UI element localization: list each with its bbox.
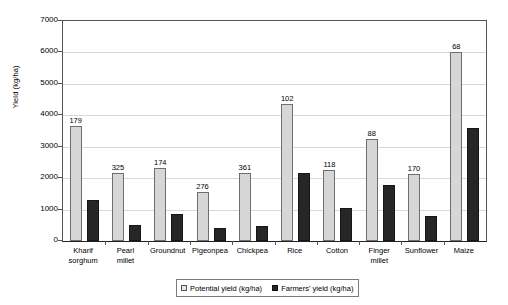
bar-farmers-yield — [425, 216, 437, 241]
bar-value-label: 276 — [188, 183, 218, 191]
y-tick-label: 5000 — [12, 79, 58, 87]
bar-farmers-yield — [129, 225, 141, 241]
legend-entry: Farmers' yield (kg/ha) — [272, 284, 353, 293]
x-axis-label: Kharif sorghum — [62, 246, 104, 265]
bar-potential-yield — [366, 139, 378, 241]
bar-farmers-yield — [87, 200, 99, 241]
x-axis-label: Rice — [274, 246, 316, 256]
yield-comparison-bar-chart: Yield (kg/ha) 01000200030004000500060007… — [0, 0, 508, 305]
gridline — [63, 178, 486, 179]
legend-swatch-icon — [272, 285, 278, 291]
bar-potential-yield — [450, 52, 462, 241]
bar-value-label: 118 — [314, 161, 344, 169]
x-tick-mark — [232, 241, 233, 245]
plot-area: 1793251742763611021188817068 — [62, 20, 487, 242]
y-tick-label: 1000 — [12, 205, 58, 213]
bar-potential-yield — [239, 173, 251, 242]
bar-potential-yield — [323, 170, 335, 241]
bar-value-label: 179 — [61, 117, 91, 125]
bar-value-label: 68 — [441, 43, 471, 51]
x-axis-label: Pigeonpea — [189, 246, 231, 256]
gridline — [63, 210, 486, 211]
x-axis-label: Sunflower — [400, 246, 442, 256]
bar-value-label: 170 — [399, 165, 429, 173]
x-tick-mark — [317, 241, 318, 245]
y-axis-ticks: 01000200030004000500060007000 — [0, 20, 58, 240]
bar-potential-yield — [112, 173, 124, 242]
x-tick-mark — [444, 241, 445, 245]
x-axis-label: Cotton — [316, 246, 358, 256]
bar-farmers-yield — [298, 173, 310, 241]
gridline — [63, 147, 486, 148]
x-axis-label: Chickpea — [231, 246, 273, 256]
gridline — [63, 84, 486, 85]
bar-farmers-yield — [340, 208, 352, 241]
x-axis-label: Groundnut — [147, 246, 189, 256]
y-tick-label: 3000 — [12, 142, 58, 150]
bar-potential-yield — [281, 104, 293, 241]
gridline — [63, 52, 486, 53]
bar-farmers-yield — [214, 228, 226, 241]
bar-potential-yield — [408, 174, 420, 241]
x-tick-mark — [359, 241, 360, 245]
bar-farmers-yield — [171, 214, 183, 241]
bar-potential-yield — [197, 192, 209, 241]
bar-farmers-yield — [256, 226, 268, 241]
x-axis-category-labels: Kharif sorghumPearl milletGroundnutPigeo… — [62, 246, 485, 274]
y-tick-label: 6000 — [12, 47, 58, 55]
bar-value-label: 361 — [230, 164, 260, 172]
bar-value-label: 102 — [272, 95, 302, 103]
x-axis-label: Pearl millet — [104, 246, 146, 265]
bar-value-label: 88 — [357, 130, 387, 138]
x-axis-label: Finger millet — [358, 246, 400, 265]
chart-legend: Potential yield (kg/ha)Farmers' yield (k… — [176, 279, 359, 297]
legend-entry: Potential yield (kg/ha) — [181, 284, 262, 293]
x-tick-mark — [148, 241, 149, 245]
legend-swatch-icon — [181, 285, 187, 291]
x-tick-mark — [275, 241, 276, 245]
legend-label: Potential yield (kg/ha) — [190, 284, 262, 293]
bar-value-label: 174 — [145, 159, 175, 167]
gridline — [63, 115, 486, 116]
x-tick-mark — [190, 241, 191, 245]
y-tick-label: 2000 — [12, 173, 58, 181]
bar-potential-yield — [70, 126, 82, 241]
x-tick-mark — [401, 241, 402, 245]
y-tick-label: 7000 — [12, 16, 58, 24]
y-tick-label: 0 — [12, 236, 58, 244]
bar-farmers-yield — [383, 185, 395, 241]
bar-farmers-yield — [467, 128, 479, 241]
y-tick-label: 4000 — [12, 110, 58, 118]
x-tick-mark — [105, 241, 106, 245]
legend-label: Farmers' yield (kg/ha) — [281, 284, 353, 293]
bar-value-label: 325 — [103, 164, 133, 172]
bar-potential-yield — [154, 168, 166, 241]
x-axis-label: Maize — [443, 246, 485, 256]
